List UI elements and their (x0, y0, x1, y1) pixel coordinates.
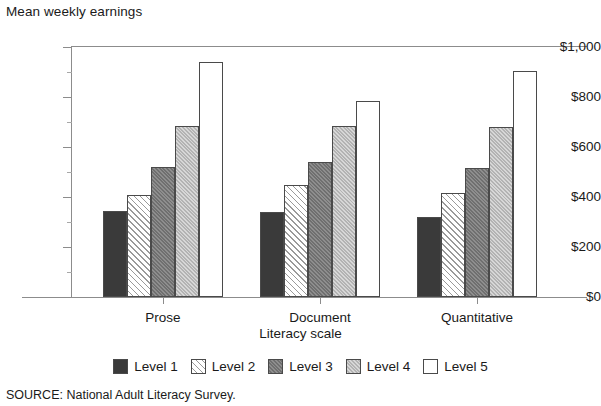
y-tick-mark-minor (67, 122, 72, 123)
legend-swatch-icon (113, 359, 128, 374)
chart-legend: Level 1Level 2Level 3Level 4Level 5 (0, 359, 601, 374)
bar-quantitative-level-3 (465, 168, 489, 297)
y-tick-label: $400 (537, 190, 601, 204)
bar-document-level-3 (308, 162, 332, 297)
plot-top-rule (71, 46, 587, 47)
legend-item-level-1[interactable]: Level 1 (113, 359, 178, 374)
x-category-label-document: Document (240, 310, 400, 325)
y-tick-label: $200 (537, 240, 601, 254)
bar-document-level-1 (260, 212, 284, 297)
bar-prose-level-1 (103, 211, 127, 297)
legend-swatch-icon (423, 359, 438, 374)
y-tick-mark-major (63, 297, 71, 298)
bar-prose-level-4 (175, 126, 199, 297)
chart-plot-area: $0$200$400$600$800$1,000 ProseDocumentQu… (0, 0, 601, 406)
bar-quantitative-level-1 (417, 217, 441, 297)
y-tick-label: $1,000 (537, 40, 601, 54)
x-category-label-prose: Prose (83, 310, 243, 325)
legend-item-level-4[interactable]: Level 4 (346, 359, 411, 374)
legend-label: Level 4 (367, 359, 411, 374)
x-category-label-quantitative: Quantitative (397, 310, 557, 325)
y-tick-mark-major (63, 47, 71, 48)
legend-swatch-icon (346, 359, 361, 374)
bar-prose-level-3 (151, 167, 175, 297)
bar-quantitative-level-5 (513, 71, 537, 297)
legend-label: Level 1 (134, 359, 178, 374)
legend-swatch-icon (191, 359, 206, 374)
legend-swatch-icon (268, 359, 283, 374)
bar-document-level-2 (284, 185, 308, 297)
legend-item-level-3[interactable]: Level 3 (268, 359, 333, 374)
legend-label: Level 3 (289, 359, 333, 374)
legend-item-level-2[interactable]: Level 2 (191, 359, 256, 374)
y-tick-label: $0 (537, 290, 601, 304)
bar-document-level-4 (332, 126, 356, 297)
y-tick-mark-minor (67, 222, 72, 223)
x-tick-mark (163, 297, 164, 304)
bar-prose-level-2 (127, 195, 151, 298)
bar-quantitative-level-2 (441, 193, 465, 297)
legend-label: Level 2 (212, 359, 256, 374)
y-tick-mark-major (63, 197, 71, 198)
y-tick-mark-minor (67, 172, 72, 173)
y-tick-label: $800 (537, 90, 601, 104)
y-tick-mark-minor (67, 72, 72, 73)
y-tick-mark-major (63, 97, 71, 98)
y-tick-mark-major (63, 147, 71, 148)
bar-quantitative-level-4 (489, 127, 513, 297)
bar-prose-level-5 (199, 62, 223, 297)
legend-item-level-5[interactable]: Level 5 (423, 359, 488, 374)
x-tick-mark (320, 297, 321, 304)
x-tick-mark (477, 297, 478, 304)
source-note: SOURCE: National Adult Literacy Survey. (6, 388, 236, 402)
x-axis-line (22, 297, 587, 298)
legend-label: Level 5 (444, 359, 488, 374)
bar-document-level-5 (356, 101, 380, 297)
y-tick-mark-major (63, 247, 71, 248)
y-tick-label: $600 (537, 140, 601, 154)
y-tick-mark-minor (67, 272, 72, 273)
x-axis-title: Literacy scale (0, 326, 601, 341)
